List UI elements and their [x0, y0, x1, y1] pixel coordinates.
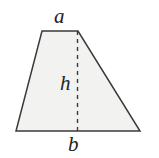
label-bottom-base-b: b: [68, 134, 79, 155]
label-top-base-a: a: [54, 6, 65, 27]
trapezoid-diagram-svg: [0, 0, 159, 158]
label-height-h: h: [60, 73, 71, 94]
trapezoid-figure: a h b: [0, 0, 159, 158]
